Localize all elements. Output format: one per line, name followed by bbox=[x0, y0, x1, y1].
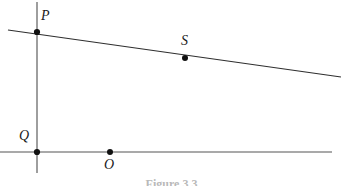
figure-container: P Q S O Figure 3.3 bbox=[0, 0, 343, 186]
point-label-O: O bbox=[104, 158, 114, 172]
slanted-line-PS bbox=[8, 30, 341, 77]
point-label-P: P bbox=[41, 9, 50, 23]
point-Q-marker bbox=[34, 149, 40, 155]
point-label-S: S bbox=[181, 34, 188, 48]
figure-caption: Figure 3.3 bbox=[0, 178, 343, 186]
geometry-diagram bbox=[0, 0, 343, 186]
point-label-Q: Q bbox=[19, 129, 29, 143]
point-O-marker bbox=[107, 149, 113, 155]
point-P-marker bbox=[34, 29, 40, 35]
point-S-marker bbox=[182, 55, 188, 61]
